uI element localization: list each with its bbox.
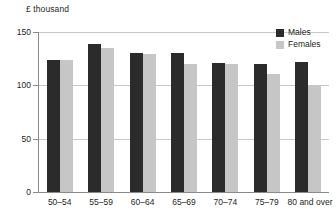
bar-males-1 bbox=[88, 44, 101, 192]
y-tick-0 bbox=[33, 192, 38, 193]
bar-group bbox=[88, 32, 114, 192]
bar-males-4 bbox=[212, 63, 225, 192]
x-axis-label-1: 55–59 bbox=[80, 197, 121, 207]
bar-group bbox=[295, 32, 321, 192]
y-tick-label-50: 50 bbox=[5, 135, 31, 144]
males-swatch-icon bbox=[276, 29, 284, 37]
y-tick-label-wrap-100: 100 bbox=[0, 81, 31, 90]
y-tick-label-150: 150 bbox=[5, 28, 31, 37]
bar-group bbox=[130, 32, 156, 192]
bar-females-0 bbox=[60, 60, 73, 192]
bar-females-1 bbox=[101, 48, 114, 192]
y-tick-150 bbox=[33, 32, 38, 33]
y-tick-label-100: 100 bbox=[5, 81, 31, 90]
bar-females-3 bbox=[184, 64, 197, 192]
bar-females-2 bbox=[143, 54, 156, 192]
females-swatch-icon bbox=[276, 41, 284, 49]
bar-males-2 bbox=[130, 53, 143, 192]
legend-item-males: Males bbox=[276, 27, 321, 38]
bar-females-6 bbox=[308, 85, 321, 192]
x-axis-label-6: 80 and over bbox=[288, 197, 329, 207]
y-tick-100 bbox=[33, 85, 38, 86]
bar-females-5 bbox=[267, 74, 280, 192]
x-axis-label-0: 50–54 bbox=[39, 197, 80, 207]
legend: Males Females bbox=[276, 27, 321, 51]
y-axis-unit-caption: £ thousand bbox=[26, 4, 69, 14]
plot-area bbox=[39, 32, 329, 192]
legend-label-males: Males bbox=[288, 28, 311, 37]
bar-group bbox=[254, 32, 280, 192]
x-axis-label-4: 70–74 bbox=[205, 197, 246, 207]
gridline-0 bbox=[39, 192, 329, 193]
y-tick-label-0: 0 bbox=[5, 188, 31, 197]
bar-group bbox=[171, 32, 197, 192]
x-axis-label-3: 65–69 bbox=[163, 197, 204, 207]
y-tick-label-wrap-150: 150 bbox=[0, 28, 31, 37]
bar-males-3 bbox=[171, 53, 184, 192]
legend-label-females: Females bbox=[288, 40, 321, 49]
y-tick-50 bbox=[33, 139, 38, 140]
y-tick-label-wrap-50: 50 bbox=[0, 135, 31, 144]
bar-chart: £ thousand 50–5455–5960–6465–6970–7475–7… bbox=[0, 0, 336, 220]
bar-females-4 bbox=[225, 64, 238, 192]
x-axis-label-5: 75–79 bbox=[246, 197, 287, 207]
bar-group bbox=[47, 32, 73, 192]
bar-males-6 bbox=[295, 62, 308, 192]
y-tick-label-wrap-0: 0 bbox=[0, 188, 31, 197]
x-axis-label-2: 60–64 bbox=[122, 197, 163, 207]
bar-males-0 bbox=[47, 60, 60, 192]
legend-item-females: Females bbox=[276, 39, 321, 50]
bar-males-5 bbox=[254, 64, 267, 192]
bar-group bbox=[212, 32, 238, 192]
